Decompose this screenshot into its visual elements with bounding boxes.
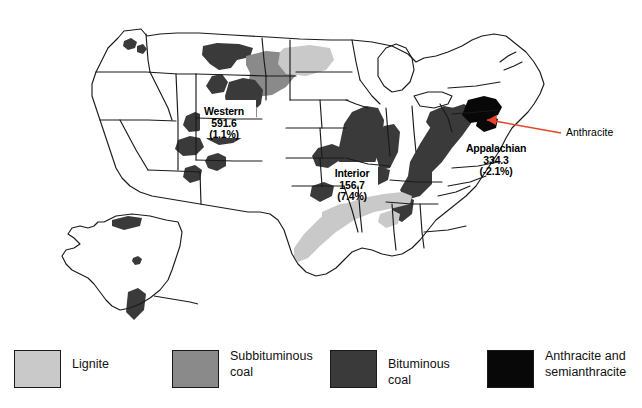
state-line-mn-wi — [352, 40, 360, 80]
deposit-north-dakota-lignite — [278, 45, 334, 76]
coal-deposits-layer — [112, 38, 502, 320]
great-lakes-erie-ontario — [414, 92, 452, 108]
state-line-wa-id — [146, 34, 150, 72]
state-line-pa-ny — [448, 82, 500, 88]
legend-swatch-lignite — [14, 350, 61, 388]
legend-swatch-subbituminous — [172, 350, 219, 388]
deposit-arizona-bituminous — [183, 165, 202, 183]
legend-swatch-anthracite — [487, 350, 534, 388]
basin-name-western: Western — [204, 106, 244, 118]
basin-name-appalachian: Appalachian — [466, 143, 526, 155]
state-line-nc-sc — [448, 176, 486, 186]
coal-basin-map-figure: Western 591.6 (1.1%) Interior 156.7 (7.4… — [0, 0, 642, 408]
deposit-mississippi-lignite — [378, 210, 400, 228]
anthracite-callout-line — [487, 120, 561, 133]
basin-label-interior: Interior 156.7 (7.4%) — [335, 168, 370, 203]
state-line-az-nm — [200, 172, 201, 204]
deposit-alaska-bituminous-north — [112, 216, 142, 230]
anthracite-callout-line-group — [487, 115, 561, 133]
deposit-utah-bituminous-2 — [175, 136, 204, 156]
state-line-wi-il — [360, 80, 380, 104]
us-map-svg — [0, 0, 642, 340]
legend-label-anthracite: Anthracite and semianthracite — [545, 349, 626, 380]
basin-label-western: Western 591.6 (1.1%) — [204, 106, 244, 141]
basin-change-western: (1.1%) — [204, 129, 244, 141]
state-line-wa-or — [96, 72, 196, 74]
basin-label-appalachian: Appalachian 334.3 (-2.1%) — [466, 143, 526, 178]
legend: Lignite Subbituminous coal Bituminous co… — [0, 338, 642, 408]
deposit-alaska-bituminous-south — [126, 288, 146, 320]
legend-label-bituminous: Bituminous coal — [388, 357, 450, 388]
alaska-aleutians — [154, 296, 198, 304]
state-line-ne-ia — [320, 100, 322, 128]
state-line-or-ca-nv — [100, 120, 176, 121]
deposit-washington-bituminous — [123, 38, 147, 54]
state-line-ny-vt-nh — [500, 52, 516, 62]
legend-swatch-bituminous — [330, 350, 377, 388]
deposit-newmexico-bituminous — [205, 153, 226, 171]
basin-change-interior: (7.4%) — [335, 191, 370, 203]
deposit-alaska-dot — [132, 256, 142, 265]
callout-label-anthracite: Anthracite — [566, 126, 613, 138]
state-line-nv-ut — [176, 74, 178, 170]
legend-label-lignite: Lignite — [72, 357, 109, 373]
state-line-al-ga — [420, 204, 424, 248]
state-line-ne-states — [504, 62, 522, 70]
legend-label-subbituminous: Subbituminous coal — [230, 349, 313, 380]
state-line-in-oh — [412, 106, 416, 152]
state-line-or-id — [150, 72, 172, 120]
state-line-ia-il — [346, 100, 368, 108]
state-line-sc-ga — [438, 186, 470, 196]
deposit-texas-lignite-2 — [322, 202, 370, 224]
deposit-montana-bituminous — [202, 43, 253, 70]
basin-name-interior: Interior — [335, 168, 370, 180]
state-line-ca-nv — [120, 120, 148, 170]
basin-change-appalachian: (-2.1%) — [466, 166, 526, 178]
great-lakes-michigan — [378, 44, 414, 92]
deposit-montana-bituminous-2 — [206, 74, 228, 94]
